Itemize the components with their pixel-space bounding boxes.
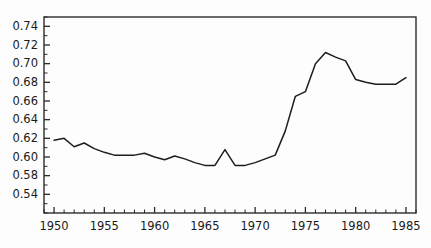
plot-frame <box>44 17 416 213</box>
y-tick-label: 0.72 <box>12 38 38 52</box>
y-tick-label: 0.70 <box>12 56 38 70</box>
y-tick-label: 0.68 <box>12 75 38 89</box>
y-tick-label: 0.66 <box>12 94 38 108</box>
y-tick-label: 0.74 <box>12 19 38 33</box>
x-axis-tick-labels: 19501955196019651970197519801985 <box>39 219 420 233</box>
y-tick-label: 0.54 <box>12 187 38 201</box>
y-axis-tick-labels: 0.740.720.700.680.660.640.620.600.580.54 <box>12 19 38 201</box>
y-tick-label: 0.62 <box>12 131 38 145</box>
data-series-line <box>54 52 406 165</box>
x-axis-ticks <box>44 207 416 213</box>
x-tick-label: 1965 <box>190 219 219 233</box>
chart-screenshot: 0.740.720.700.680.660.640.620.600.580.54… <box>0 0 431 248</box>
y-tick-label: 0.64 <box>12 112 38 126</box>
x-tick-label: 1960 <box>140 219 169 233</box>
x-tick-label: 1985 <box>391 219 420 233</box>
y-axis-ticks <box>44 17 50 213</box>
line-chart-figure: 0.740.720.700.680.660.640.620.600.580.54… <box>0 0 431 248</box>
x-tick-label: 1950 <box>39 219 68 233</box>
y-tick-label: 0.58 <box>12 168 38 182</box>
y-tick-label: 0.60 <box>12 150 38 164</box>
x-tick-label: 1955 <box>90 219 119 233</box>
chart-svg: 0.740.720.700.680.660.640.620.600.580.54… <box>0 0 431 248</box>
x-tick-label: 1980 <box>341 219 370 233</box>
x-tick-label: 1970 <box>240 219 269 233</box>
x-tick-label: 1975 <box>291 219 320 233</box>
